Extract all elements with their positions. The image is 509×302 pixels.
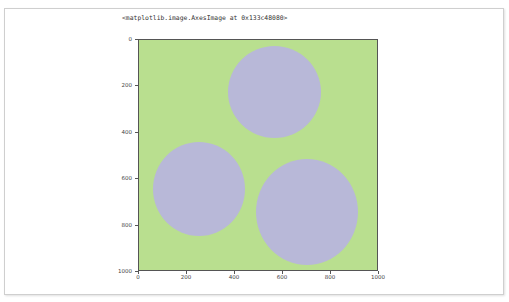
ytick-200: 200	[108, 82, 132, 88]
ytick-0: 0	[108, 36, 132, 42]
ytick-800: 800	[108, 222, 132, 228]
ytick-600: 600	[108, 175, 132, 181]
image-plot-area	[138, 39, 378, 271]
blob-right	[256, 159, 358, 265]
output-repr-text: <matplotlib.image.AxesImage at 0x133c480…	[122, 14, 287, 22]
xtick-200: 200	[174, 274, 198, 280]
xtick-600: 600	[270, 274, 294, 280]
xtick-1000: 1000	[366, 274, 390, 280]
xtick-800: 800	[318, 274, 342, 280]
ytick-400: 400	[108, 129, 132, 135]
xtick-0: 0	[126, 274, 150, 280]
xtick-400: 400	[222, 274, 246, 280]
blob-left	[153, 142, 245, 236]
blob-top	[228, 46, 321, 138]
